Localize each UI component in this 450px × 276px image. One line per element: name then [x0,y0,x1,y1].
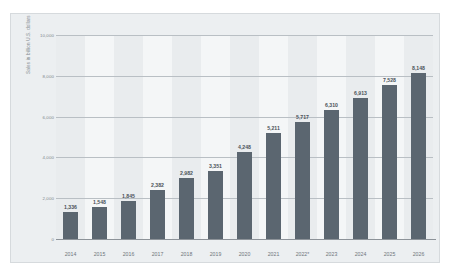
bar-value-label: 1,845 [115,193,142,199]
bar[interactable] [179,178,194,239]
bar-column[interactable]: 6,913 [353,35,368,239]
bar-column[interactable]: 3,351 [208,35,223,239]
y-axis-tick-label: 10,000 [12,33,54,38]
x-axis-tick-labels: 201420152016201720182019202020212022*202… [56,242,433,258]
bar-column[interactable]: 6,310 [324,35,339,239]
bar[interactable] [121,201,136,239]
y-axis-tick-label: 0 [12,237,54,242]
x-axis-tick-label: 2015 [94,251,106,257]
bar[interactable] [411,73,426,239]
bar[interactable] [295,122,310,239]
chart-root: Sales in billion U.S. dollars 02,0004,00… [0,0,450,276]
bar-column[interactable]: 2,382 [150,35,165,239]
bar-value-label: 4,248 [231,144,258,150]
x-axis-tick-label: 2026 [413,251,425,257]
bar[interactable] [266,133,281,239]
plot-area: 1,3361,5481,8452,3822,9823,3514,2485,211… [56,35,433,239]
y-axis-tick-label: 8,000 [12,73,54,78]
bar-value-label: 5,717 [289,114,316,120]
bar[interactable] [150,190,165,239]
bar-column[interactable]: 5,211 [266,35,281,239]
bar-value-label: 3,351 [202,163,229,169]
x-axis-tick-label: 2020 [239,251,251,257]
bar-value-label: 7,528 [376,77,403,83]
bar-value-label: 6,913 [347,90,374,96]
chart-frame: Sales in billion U.S. dollars 02,0004,00… [10,13,440,263]
bar[interactable] [324,110,339,239]
bar-value-label: 1,336 [57,204,84,210]
x-axis-tick-label: 2016 [123,251,135,257]
bar-column[interactable]: 4,248 [237,35,252,239]
x-axis-baseline [56,239,436,240]
x-axis-tick-label: 2014 [65,251,77,257]
y-axis-tick-label: 2,000 [12,196,54,201]
bar[interactable] [353,98,368,239]
bar-column[interactable]: 7,528 [382,35,397,239]
bar-value-label: 2,382 [144,182,171,188]
bar-value-label: 8,148 [405,65,432,71]
y-axis-tick-label: 6,000 [12,114,54,119]
bar[interactable] [92,207,107,239]
bar-column[interactable]: 1,336 [63,35,78,239]
bar-value-label: 1,548 [86,199,113,205]
x-axis-tick-label: 2024 [355,251,367,257]
x-axis-tick-label: 2021 [268,251,280,257]
y-axis-tick-labels: 02,0004,0006,0008,00010,000 [11,14,54,276]
bar[interactable] [208,171,223,239]
bar-column[interactable]: 1,548 [92,35,107,239]
bar-column[interactable]: 2,982 [179,35,194,239]
bar-value-label: 6,310 [318,102,345,108]
x-axis-tick-label: 2017 [152,251,164,257]
x-axis-tick-label: 2025 [384,251,396,257]
bar[interactable] [237,152,252,239]
bar-value-label: 5,211 [260,125,287,131]
bar-column[interactable]: 5,717 [295,35,310,239]
x-axis-tick-label: 2018 [181,251,193,257]
x-axis-tick-label: 2019 [210,251,222,257]
x-axis-tick-label: 2022* [296,251,310,257]
bar-column[interactable]: 1,845 [121,35,136,239]
bar-column[interactable]: 8,148 [411,35,426,239]
y-axis-tick-label: 4,000 [12,155,54,160]
bar[interactable] [63,212,78,239]
bar-value-label: 2,982 [173,170,200,176]
x-axis-tick-label: 2023 [326,251,338,257]
bar[interactable] [382,85,397,239]
